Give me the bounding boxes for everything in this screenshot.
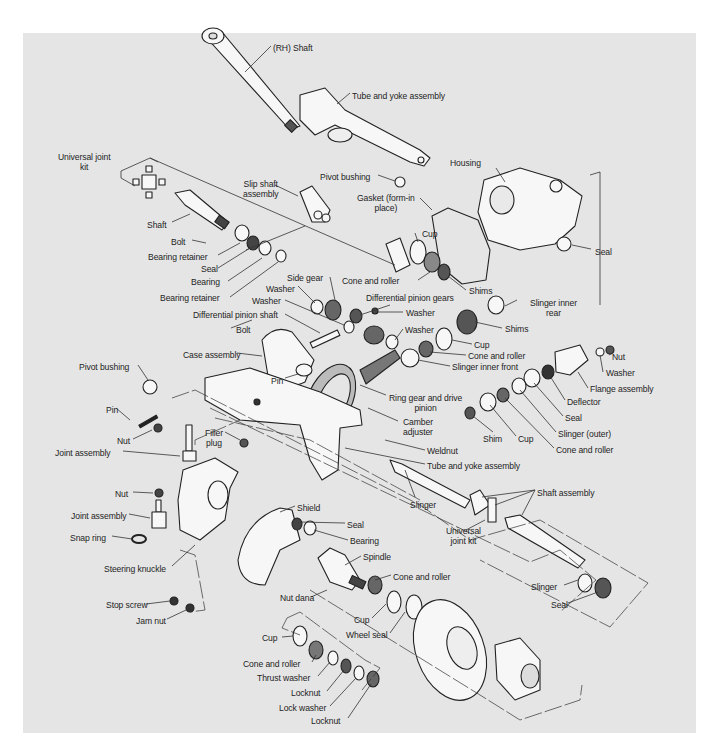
seal-housing-part	[557, 237, 571, 251]
label-line: Seal	[347, 520, 364, 530]
label-line: Tube and yoke assembly	[427, 461, 520, 471]
label-line: Bearing	[191, 277, 220, 287]
label-slinger-mid: Slinger	[410, 500, 436, 510]
label-shaft-left: Shaft	[147, 220, 167, 230]
label-line: pinion	[389, 403, 462, 413]
label-line: Camber	[403, 417, 433, 427]
label-shim: Shim	[483, 434, 502, 444]
universal-joint-top-part	[133, 166, 165, 198]
label-ring-gear: Ring gear and drivepinion	[389, 393, 462, 413]
label-joint-assembly-top: Joint assembly	[55, 448, 110, 458]
label-line: Gasket (form-in	[357, 193, 415, 203]
label-nut-mid: Nut	[115, 489, 128, 499]
label-deflector: Deflector	[567, 397, 601, 407]
label-bearing-retainer-1: Bearing retainer	[148, 252, 208, 262]
cone-top-part	[424, 252, 440, 272]
label-flange-assembly: Flange assembly	[590, 384, 653, 394]
label-line: Universal	[446, 526, 481, 536]
label-slinger-inner-front: Slinger inner front	[452, 362, 518, 372]
label-line: Cup	[262, 633, 277, 643]
label-line: Slinger inner	[530, 298, 577, 308]
label-shield: Shield	[297, 503, 320, 513]
bearing-cap-part	[386, 238, 410, 272]
label-thrust-washer: Thrust washer	[257, 673, 310, 683]
label-bearing-left: Bearing	[191, 277, 220, 287]
label-line: Slinger	[531, 582, 557, 592]
pivot-bushing-left-part	[143, 380, 157, 394]
shaft-left-part	[175, 190, 229, 230]
shims-top-part	[438, 264, 450, 280]
label-universal-joint-kit-bottom: Universaljoint kit	[446, 526, 481, 546]
joint-assembly-top-part	[183, 425, 196, 461]
label-line: Lock washer	[279, 703, 326, 713]
label-shims-mid: Shims	[505, 324, 528, 334]
label-line: plug	[205, 438, 223, 448]
label-line: Cup	[354, 615, 369, 625]
label-cup-mid: Cup	[474, 340, 489, 350]
bearing-spindle-part	[304, 521, 316, 535]
label-joint-assembly-bottom: Joint assembly	[71, 511, 126, 521]
label-differential-pinion-gears: Differential pinion gears	[366, 293, 454, 303]
label-washer-3: Washer	[406, 308, 435, 318]
label-cone-roller-top: Cone and roller	[342, 276, 399, 286]
label-line: Cone and roller	[556, 445, 613, 455]
label-line: Pin	[106, 405, 118, 415]
stop-screw-part	[170, 597, 178, 605]
label-seal-left: Seal	[201, 264, 218, 274]
label-line: assembly	[243, 189, 279, 199]
label-line: Slip shaft	[243, 179, 279, 189]
label-line: Cup	[474, 340, 489, 350]
label-line: Ring gear and drive	[389, 393, 462, 403]
label-seal-right: Seal	[565, 413, 582, 423]
label-tube-yoke-top: Tube and yoke assembly	[352, 91, 445, 101]
label-line: Pivot bushing	[79, 362, 129, 372]
label-line: Joint assembly	[55, 448, 110, 458]
label-line: Bolt	[236, 325, 250, 335]
label-cone-roller-mid: Cone and roller	[468, 351, 525, 361]
joint-assembly-bottom-part	[152, 500, 166, 528]
label-spindle: Spindle	[363, 552, 391, 562]
label-snap-ring: Snap ring	[70, 533, 106, 543]
label-locknut-1: Locknut	[291, 688, 320, 698]
label-cone-roller-spindle: Cone and roller	[393, 572, 450, 582]
label-universal-joint-kit-top: Universal jointkit	[58, 152, 110, 172]
label-line: joint kit	[446, 536, 481, 546]
label-jam-nut: Jam nut	[136, 616, 166, 626]
label-shims-top: Shims	[469, 286, 492, 296]
pivot-bushing-top-part	[395, 177, 405, 187]
label-weldnut: Weldnut	[427, 446, 458, 456]
label-line: Universal joint	[58, 152, 110, 162]
label-slinger-bottom: Slinger	[531, 582, 557, 592]
label-line: kit	[58, 162, 110, 172]
label-line: Shaft	[147, 220, 167, 230]
label-line: Bearing	[350, 536, 379, 546]
slip-shaft-part	[300, 186, 330, 222]
differential-gears	[310, 300, 398, 349]
label-filler-plug: Fillerplug	[205, 428, 223, 448]
label-line: Case assembly	[183, 350, 240, 360]
label-washer-2: Washer	[252, 296, 281, 306]
label-washer-right: Washer	[606, 368, 635, 378]
label-line: Shims	[505, 324, 528, 334]
label-line: Thrust washer	[257, 673, 310, 683]
label-nut-left: Nut	[117, 436, 130, 446]
label-line: Shaft assembly	[537, 488, 594, 498]
label-pivot-bushing-top: Pivot bushing	[320, 172, 370, 182]
label-line: Shim	[483, 434, 502, 444]
snap-ring-part	[132, 535, 146, 543]
label-line: Differential pinion shaft	[193, 310, 278, 320]
label-line: Joint assembly	[71, 511, 126, 521]
label-line: (RH) Shaft	[273, 43, 313, 53]
label-bearing-retainer-2: Bearing retainer	[160, 293, 220, 303]
label-nut-dana: Nut dana	[280, 593, 314, 603]
label-washer-1: Washer	[266, 284, 295, 294]
label-side-gear: Side gear	[287, 273, 323, 283]
label-line: Pivot bushing	[320, 172, 370, 182]
label-line: Washer	[405, 325, 434, 335]
label-seal-housing: Seal	[595, 247, 612, 257]
shield-part	[238, 508, 300, 585]
label-line: Shield	[297, 503, 320, 513]
label-line: Bolt	[171, 237, 185, 247]
label-seal-spindle: Seal	[347, 520, 364, 530]
label-line: Washer	[266, 284, 295, 294]
